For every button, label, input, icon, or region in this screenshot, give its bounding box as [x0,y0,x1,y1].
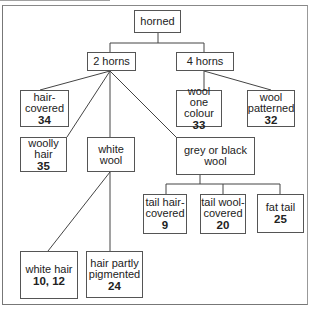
node-label: white wool [98,144,124,166]
node-number: 25 [274,213,287,225]
node-four-horns: 4 horns [176,52,234,71]
node-number: 35 [37,160,50,172]
node-label: tail wool- covered [201,197,244,219]
node-number: 34 [38,114,51,126]
node-wool-one-colour: wool one colour 33 [176,90,222,127]
node-hair-covered: hair- covered 34 [20,90,69,127]
node-number: 32 [265,114,278,126]
node-hair-partly-pigmented: hair partly pigmented 24 [86,251,143,298]
node-label: white hair [25,264,72,275]
node-two-horns: 2 horns [87,52,136,71]
node-label: grey or black wool [184,145,247,167]
node-label: tail hair- covered [145,197,184,219]
node-label: hair- covered [25,92,64,114]
node-horned: horned [134,10,181,33]
node-label: woolly hair [28,138,59,160]
node-label: horned [140,16,174,27]
node-label: 2 horns [93,56,130,67]
node-tail-hair-covered: tail hair- covered 9 [143,194,187,234]
node-label: 4 horns [187,56,224,67]
node-number: 9 [162,219,168,231]
node-label: wool patterned [248,92,294,114]
node-number: 33 [193,119,206,131]
node-label: fat tail [266,202,295,213]
node-label: wool one colour [177,86,221,119]
node-woolly-hair: woolly hair 35 [20,137,67,172]
node-wool-patterned: wool patterned 32 [247,90,295,127]
node-fat-tail: fat tail 25 [257,194,304,233]
node-number: 20 [217,219,230,231]
node-number: 10, 12 [33,275,65,287]
node-grey-black-wool: grey or black wool [176,137,255,175]
node-white-hair: white hair 10, 12 [20,251,78,299]
node-number: 24 [108,280,121,292]
node-tail-wool-covered: tail wool- covered 20 [200,194,246,234]
node-white-wool: white wool [87,137,135,172]
node-label: hair partly pigmented [89,258,140,280]
